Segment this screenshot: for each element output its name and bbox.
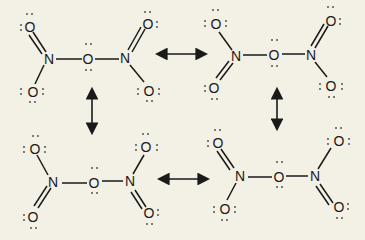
bridge-oxygen-atom: O: [89, 175, 100, 191]
oxygen-atom: O: [220, 201, 231, 217]
oxygen-atom: O: [213, 135, 224, 151]
nitrogen-atom: N: [44, 51, 54, 67]
structure-top-left: O N O N O O O: [20, 11, 160, 103]
nitrogen-atom: N: [306, 47, 316, 63]
nitrogen-atom: N: [125, 173, 135, 189]
structure-bottom-right: O N O N O O O: [207, 127, 350, 221]
oxygen-atom: O: [326, 13, 337, 29]
bridge-oxygen-atom: O: [274, 169, 285, 185]
nitrogen-atom: N: [235, 168, 245, 184]
oxygen-atom: O: [209, 80, 220, 96]
oxygen-atom: O: [141, 139, 152, 155]
oxygen-atom: O: [144, 83, 155, 99]
structure-bottom-left: O N O N O O O: [23, 133, 159, 229]
nitrogen-atom: N: [231, 48, 241, 64]
oxygen-atom: O: [143, 16, 154, 32]
oxygen-atom: O: [28, 209, 39, 225]
oxygen-atom: O: [334, 199, 345, 215]
nitrogen-atom: N: [310, 168, 320, 184]
bridge-oxygen-atom: O: [269, 47, 280, 63]
resonance-diagram: O N O N O O O O N O: [0, 0, 365, 240]
nitrogen-atom: N: [120, 50, 130, 66]
oxygen-atom: O: [334, 133, 345, 149]
bridge-oxygen-atom: O: [83, 51, 94, 67]
oxygen-atom: O: [326, 78, 337, 94]
oxygen-atom: O: [30, 141, 41, 157]
oxygen-atom: O: [211, 16, 222, 32]
oxygen-atom: O: [25, 19, 36, 35]
oxygen-atom: O: [144, 205, 155, 221]
oxygen-atom: O: [28, 84, 39, 100]
nitrogen-atom: N: [48, 174, 58, 190]
structure-top-right: O N O N O O O: [204, 6, 343, 100]
